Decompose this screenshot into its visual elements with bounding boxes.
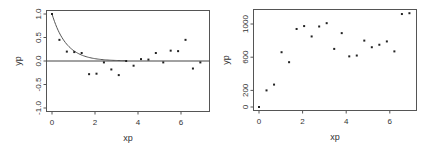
left-scatter-plot: 0246 -1.0-0.50.00.51.0 xp yp <box>13 8 210 143</box>
data-point <box>199 61 201 63</box>
right-x-axis: 0246 <box>257 111 393 126</box>
data-point <box>185 39 187 41</box>
data-point <box>177 50 179 52</box>
x-tick-label: 2 <box>93 118 98 127</box>
data-point <box>378 44 380 46</box>
y-tick-label: 1.0 <box>34 8 43 20</box>
x-tick-label: 6 <box>388 117 393 126</box>
y-tick-label: -0.5 <box>34 77 43 91</box>
data-point <box>311 35 313 37</box>
x-tick-label: 2 <box>300 117 305 126</box>
data-point <box>318 25 320 27</box>
data-point <box>110 68 112 70</box>
x-tick-label: 4 <box>136 118 141 127</box>
figure: 0246 -1.0-0.50.00.51.0 xp yp 0246 020060… <box>0 0 437 151</box>
data-point <box>192 68 194 70</box>
left-decay-curve <box>52 14 125 61</box>
data-point <box>386 40 388 42</box>
y-tick-label: 600 <box>241 50 250 64</box>
left-y-axis-label: yp <box>13 56 23 66</box>
data-point <box>58 39 60 41</box>
left-y-axis: -1.0-0.50.00.51.0 <box>34 8 47 115</box>
data-point <box>363 40 365 42</box>
data-point <box>333 48 335 50</box>
y-tick-label: 0.5 <box>34 31 43 43</box>
data-point <box>155 52 157 54</box>
x-tick-label: 4 <box>344 117 349 126</box>
data-point <box>348 55 350 57</box>
data-point <box>133 65 135 67</box>
right-scatter-plot: 0246 02006001000 xp yp <box>221 10 417 143</box>
data-point <box>288 61 290 63</box>
data-point <box>51 13 53 15</box>
data-point <box>125 60 127 62</box>
data-point <box>170 50 172 52</box>
x-tick-label: 0 <box>257 117 262 126</box>
data-point <box>371 46 373 48</box>
y-tick-label: 1000 <box>241 15 250 33</box>
y-tick-label: 200 <box>241 83 250 97</box>
data-point <box>88 73 90 75</box>
data-point <box>258 106 260 108</box>
data-point <box>81 52 83 54</box>
data-point <box>296 28 298 30</box>
data-point <box>356 55 358 57</box>
data-point <box>140 58 142 60</box>
data-point <box>73 51 75 53</box>
x-tick-label: 0 <box>50 118 55 127</box>
y-tick-label: 0.0 <box>34 55 43 67</box>
data-point <box>162 61 164 63</box>
right-plot-frame <box>254 10 417 111</box>
data-point <box>303 25 305 27</box>
y-tick-label: -1.0 <box>34 101 43 115</box>
data-point <box>281 51 283 53</box>
y-tick-label: 0 <box>241 104 250 109</box>
data-point <box>96 73 98 75</box>
data-point <box>273 84 275 86</box>
data-point <box>118 74 120 76</box>
right-y-axis: 02006001000 <box>241 15 254 110</box>
data-point <box>147 59 149 61</box>
left-data-points <box>51 13 201 76</box>
data-point <box>408 12 410 14</box>
left-x-axis-label: xp <box>123 133 133 143</box>
x-tick-label: 6 <box>179 118 184 127</box>
data-point <box>326 22 328 24</box>
data-point <box>266 89 268 91</box>
left-x-axis: 0246 <box>50 112 184 127</box>
data-point <box>341 32 343 34</box>
data-point <box>66 51 68 53</box>
data-point <box>393 50 395 52</box>
data-point <box>401 13 403 15</box>
right-data-points <box>258 12 410 108</box>
right-y-axis-label: yp <box>221 55 231 65</box>
right-x-axis-label: xp <box>330 132 340 142</box>
data-point <box>103 61 105 63</box>
